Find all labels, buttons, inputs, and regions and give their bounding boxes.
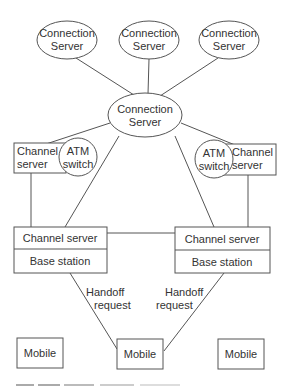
left-atm-switch: ATM switch — [59, 138, 97, 176]
svg-text:Mobile: Mobile — [225, 348, 257, 360]
left-base-unit: Channel server Base station — [14, 227, 107, 273]
label: server — [232, 159, 263, 171]
svg-text:Mobile: Mobile — [24, 347, 56, 359]
link-top-left-to-central — [76, 58, 134, 95]
base-station-label: Base station — [192, 256, 253, 268]
label: Connection — [117, 103, 173, 115]
label: Server — [133, 40, 166, 52]
link-top-right-to-central — [160, 58, 218, 96]
channel-server-label: Channel server — [185, 233, 260, 245]
right-atm-switch: ATM switch — [195, 140, 233, 178]
svg-text:Handoff: Handoff — [86, 286, 125, 298]
mobile-left: Mobile — [17, 338, 63, 368]
label: server — [17, 158, 48, 170]
label: switch — [199, 160, 230, 172]
label: Channel — [17, 145, 58, 157]
handoff-link-right — [164, 273, 224, 351]
network-diagram: Connection Server Connection Server Conn… — [0, 0, 285, 386]
label: Server — [51, 40, 84, 52]
handoff-link-left — [70, 273, 117, 349]
label: Channel — [232, 146, 273, 158]
label: Connection — [121, 27, 177, 39]
base-station-label: Base station — [30, 255, 91, 267]
label: switch — [63, 158, 94, 170]
label: ATM — [67, 145, 89, 157]
label: Server — [213, 40, 246, 52]
top-connection-server-3: Connection Server — [199, 21, 259, 59]
mobile-right: Mobile — [218, 339, 264, 369]
label: Connection — [201, 27, 257, 39]
top-connection-server-2: Connection Server — [119, 21, 179, 59]
label: Server — [129, 116, 162, 128]
svg-text:Handoff: Handoff — [165, 286, 204, 298]
svg-text:Mobile: Mobile — [124, 348, 156, 360]
label: Connection — [39, 27, 95, 39]
top-connection-server-1: Connection Server — [37, 21, 97, 59]
left-channel-server: Channel server — [14, 143, 66, 173]
label: ATM — [203, 147, 225, 159]
handoff-label-left: Handoff request — [86, 286, 131, 311]
right-base-unit: Channel server Base station — [175, 227, 270, 273]
channel-server-label: Channel server — [23, 232, 98, 244]
central-connection-server: Connection Server — [108, 93, 182, 137]
link-top-middle-to-central — [148, 59, 149, 94]
svg-text:request: request — [94, 299, 131, 311]
mobile-center: Mobile — [117, 339, 163, 369]
svg-text:request: request — [156, 299, 193, 311]
